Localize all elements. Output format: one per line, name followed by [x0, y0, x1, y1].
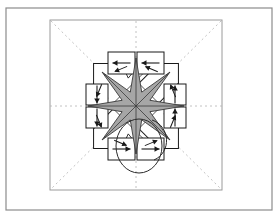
eight-point-star	[88, 58, 184, 154]
figure-root	[0, 0, 278, 218]
symmetry-diagram-canvas	[0, 0, 278, 218]
